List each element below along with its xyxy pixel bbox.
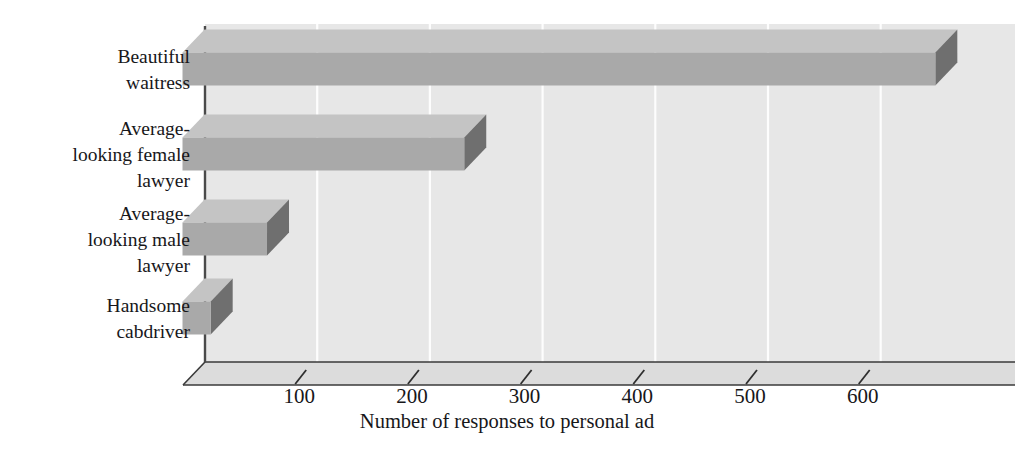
bar-chart: 100200300400500600 BeautifulwaitressAver…	[0, 0, 1015, 459]
category-label-line: Average-	[119, 118, 190, 139]
x-axis-title: Number of responses to personal ad	[360, 410, 654, 433]
category-label-line: lawyer	[137, 170, 191, 191]
bar-1	[183, 115, 487, 171]
x-tick-label-200: 200	[396, 384, 428, 408]
category-label-line: cabdriver	[116, 321, 190, 342]
bar-top-face-0	[183, 30, 958, 53]
x-tick-label-500: 500	[734, 384, 766, 408]
category-label-line: waitress	[126, 72, 190, 93]
category-label-line: lawyer	[137, 255, 191, 276]
category-label-line: looking female	[72, 144, 190, 165]
bar-front-face-1	[183, 138, 465, 171]
category-label-line: Beautiful	[117, 46, 190, 67]
chart-canvas: 100200300400500600 BeautifulwaitressAver…	[0, 0, 1015, 459]
x-tick-label-600: 600	[847, 384, 879, 408]
floor-plane	[183, 362, 1015, 385]
x-tick-label-100: 100	[283, 384, 315, 408]
category-label-line: Handsome	[107, 295, 190, 316]
bar-front-face-2	[183, 223, 268, 256]
bar-2	[183, 200, 290, 256]
category-label-line: looking male	[88, 229, 190, 250]
category-label-line: Average-	[119, 203, 190, 224]
bar-front-face-0	[183, 53, 936, 86]
bar-top-face-1	[183, 115, 487, 138]
x-tick-label-400: 400	[622, 384, 654, 408]
bar-0	[183, 30, 958, 86]
x-tick-label-300: 300	[509, 384, 541, 408]
